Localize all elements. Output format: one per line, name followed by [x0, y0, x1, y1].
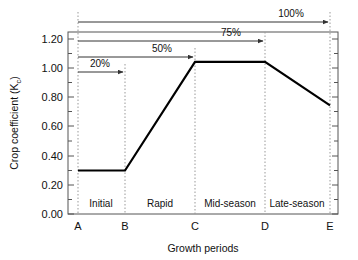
stage-label-late-season: Late-season: [269, 198, 324, 209]
x-tick-labels: A B C D E: [74, 220, 333, 232]
y-tick-label: 0.60: [42, 120, 63, 132]
y-tick-label: 0.80: [42, 91, 63, 103]
y-axis-title-text: Crop coefficient (K: [8, 84, 20, 170]
annotation-label-100: 100%: [278, 8, 304, 19]
stage-label-rapid: Rapid: [147, 198, 173, 209]
y-tick-label: 0.00: [42, 208, 63, 220]
y-tick-labels: 1.20 1.00 0.80 0.60 0.40 0.20 0.00: [42, 33, 63, 220]
x-tick-label-b: B: [121, 220, 128, 232]
chart-figure: 1.20 1.00 0.80 0.60 0.40 0.20 0.00 Crop …: [0, 0, 358, 260]
y-axis-title: Crop coefficient (Kc): [8, 76, 23, 169]
x-tick-label-a: A: [74, 220, 82, 232]
y-tick-label: 1.00: [42, 62, 63, 74]
x-tick-label-e: E: [326, 220, 333, 232]
annotation-label-75: 75%: [221, 27, 241, 38]
x-axis-title: Growth periods: [167, 242, 238, 254]
y-tick-label: 0.40: [42, 150, 63, 162]
crop-coefficient-chart: 1.20 1.00 0.80 0.60 0.40 0.20 0.00 Crop …: [0, 0, 358, 260]
stage-label-mid-season: Mid-season: [204, 198, 256, 209]
y-axis-title-tail: ): [8, 76, 20, 80]
annotation-label-20: 20%: [90, 58, 110, 69]
y-tick-label: 0.20: [42, 179, 63, 191]
x-tick-label-c: C: [191, 220, 199, 232]
y-tick-label: 1.20: [42, 33, 63, 45]
annotation-label-50: 50%: [152, 43, 172, 54]
svg-text:Crop coefficient (Kc): Crop coefficient (Kc): [8, 76, 23, 169]
stage-label-initial: Initial: [89, 198, 112, 209]
x-tick-label-d: D: [261, 220, 269, 232]
